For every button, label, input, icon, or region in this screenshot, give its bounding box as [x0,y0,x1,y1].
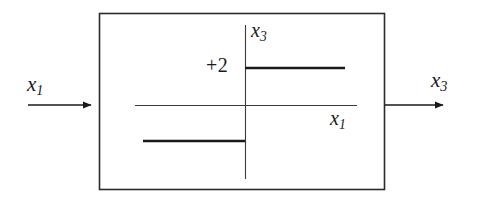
output-signal-label: x3 [431,70,447,93]
input-signal-label-base: x [27,72,36,96]
input-signal-label: x1 [27,74,43,97]
horizontal-axis-label: x1 [330,108,346,131]
diagram-canvas: x1 x3 x3 x1 +2 [0,0,481,204]
output-signal-label-base: x [431,68,440,92]
input-signal-label-sub: 1 [36,82,43,98]
nonlinearity-block-outline [100,14,385,190]
output-signal-label-sub: 3 [440,78,447,94]
vertical-axis-label-sub: 3 [260,29,267,44]
horizontal-axis-label-sub: 1 [339,117,346,132]
horizontal-axis-label-base: x [330,107,339,129]
level-value-label: +2 [206,55,228,75]
vertical-axis-label-base: x [251,19,260,41]
diagram-svg [0,0,481,204]
vertical-axis-label: x3 [251,20,267,43]
